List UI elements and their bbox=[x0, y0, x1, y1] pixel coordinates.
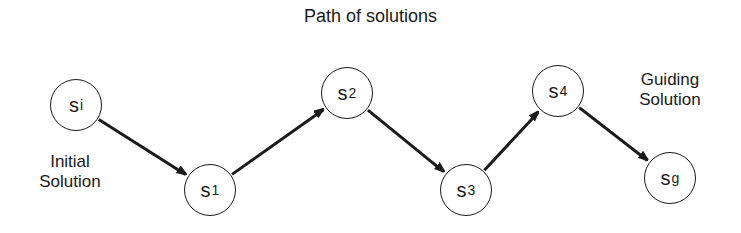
guiding-label-line1: Guiding bbox=[620, 70, 720, 90]
node-s1: s1 bbox=[184, 164, 236, 216]
arrow-si-to-s1 bbox=[99, 119, 186, 174]
arrow-s1-to-s2 bbox=[232, 110, 323, 175]
node-s2: s2 bbox=[321, 67, 373, 119]
arrow-s3-to-s4 bbox=[484, 112, 538, 170]
guiding-label-line2: Solution bbox=[620, 90, 720, 110]
initial-label-line1: Initial bbox=[30, 152, 110, 172]
node-s3: s3 bbox=[440, 164, 492, 216]
edges-layer bbox=[0, 0, 741, 233]
arrow-s4-to-sg bbox=[579, 108, 647, 161]
initial-label-line2: Solution bbox=[30, 172, 110, 192]
node-si: si bbox=[50, 79, 102, 131]
node-s4: s4 bbox=[532, 65, 584, 117]
guiding-solution-label: Guiding Solution bbox=[620, 70, 720, 110]
initial-solution-label: Initial Solution bbox=[30, 152, 110, 192]
arrow-s2-to-s3 bbox=[368, 110, 444, 172]
node-sg: sg bbox=[644, 152, 696, 204]
